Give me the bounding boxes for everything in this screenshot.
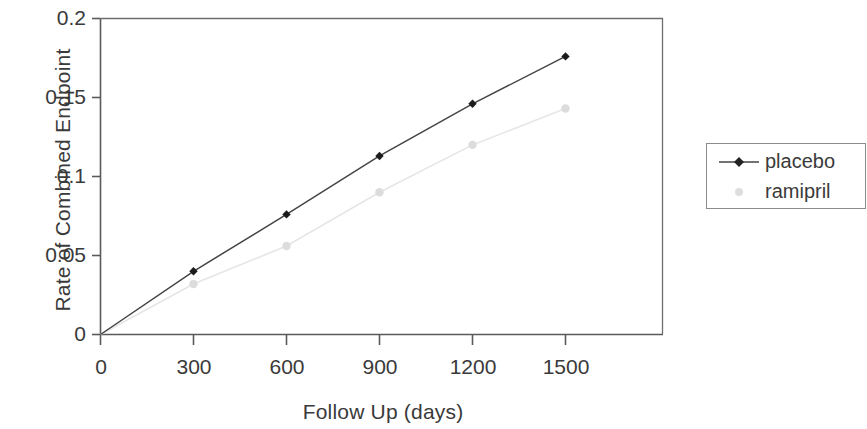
legend-item-ramipril[interactable]: ramipril xyxy=(707,177,867,207)
x-tick-label: 1500 xyxy=(526,355,606,379)
data-point-marker xyxy=(282,210,290,218)
series-placebo xyxy=(101,52,570,334)
x-tick-label: 1200 xyxy=(433,355,513,379)
y-tick-marks xyxy=(92,19,100,335)
y-tick-label: 0.15 xyxy=(16,85,86,109)
data-point-marker xyxy=(468,141,476,149)
data-point-marker xyxy=(375,152,383,160)
legend-item-placebo[interactable]: placebo xyxy=(707,147,867,177)
legend: placebo ramipril xyxy=(706,143,866,209)
data-point-marker xyxy=(468,100,476,108)
x-axis-title: Follow Up (days) xyxy=(100,400,666,424)
series-ramipril xyxy=(101,104,570,334)
legend-label-placebo: placebo xyxy=(765,150,835,173)
y-tick-label: 0 xyxy=(16,322,86,346)
y-tick-label: 0.1 xyxy=(16,164,86,188)
data-point-marker xyxy=(189,267,197,275)
x-tick-label: 900 xyxy=(340,355,420,379)
y-tick-label: 0.05 xyxy=(16,243,86,267)
placebo-line-marker-icon xyxy=(717,147,761,177)
data-point-marker xyxy=(561,52,569,60)
x-tick-label: 300 xyxy=(154,355,234,379)
legend-label-ramipril: ramipril xyxy=(765,180,831,203)
x-tick-label: 0 xyxy=(61,355,141,379)
x-tick-label: 600 xyxy=(247,355,327,379)
data-point-marker xyxy=(561,104,569,112)
y-tick-label: 0.2 xyxy=(16,6,86,30)
data-point-marker xyxy=(189,280,197,288)
ramipril-dot-marker-icon xyxy=(717,177,761,207)
data-point-marker xyxy=(282,242,290,250)
data-point-marker xyxy=(375,188,383,196)
x-tick-marks xyxy=(101,334,566,345)
